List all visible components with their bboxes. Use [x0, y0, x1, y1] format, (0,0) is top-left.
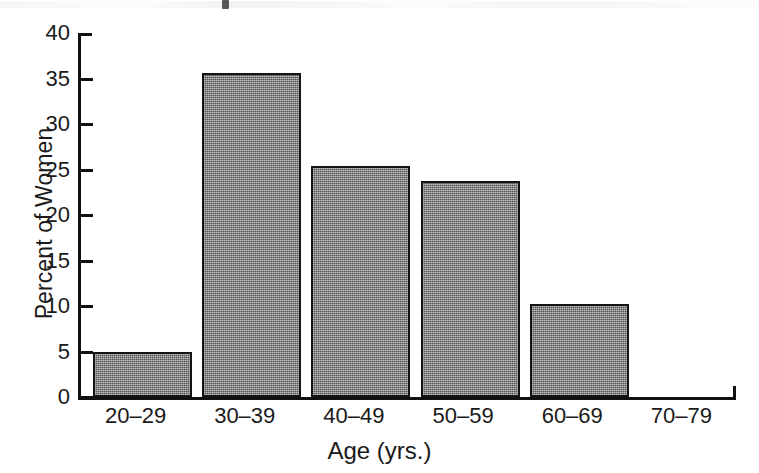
y-axis-tick-label: 15: [28, 250, 70, 272]
bar: [421, 181, 520, 397]
bar: [530, 304, 629, 397]
y-axis-tick-label: 30: [28, 113, 70, 135]
x-axis-tick-label: 30–39: [190, 404, 299, 428]
plot-area: [81, 33, 736, 397]
bar: [202, 73, 301, 397]
x-axis-tick-label: 50–59: [409, 404, 518, 428]
y-axis-tick-labels: 0510152025303540: [20, 0, 70, 473]
y-axis-tick-label: 40: [28, 22, 70, 44]
y-axis-tick-label: 20: [28, 204, 70, 226]
y-axis-tick-label: 35: [28, 68, 70, 90]
x-axis-title: Age (yrs.): [0, 437, 759, 465]
y-axis-tick-label: 25: [28, 159, 70, 181]
x-axis-line: [78, 397, 736, 400]
scan-smudge-artifact: [0, 1, 759, 8]
y-axis-tick-label: 0: [28, 386, 70, 408]
x-axis-tick-label: 20–29: [81, 404, 190, 428]
x-axis-tick-label: 60–69: [518, 404, 627, 428]
x-axis-tick-label: 40–49: [299, 404, 408, 428]
y-axis-tick-label: 10: [28, 295, 70, 317]
y-axis-tick-label: 5: [28, 341, 70, 363]
x-axis-tick-label: 70–79: [627, 404, 736, 428]
bar: [93, 352, 192, 398]
bar: [311, 166, 410, 397]
scan-speck-artifact: [222, 0, 229, 9]
histogram-figure: Percent of Women 0510152025303540 20–293…: [0, 0, 759, 473]
